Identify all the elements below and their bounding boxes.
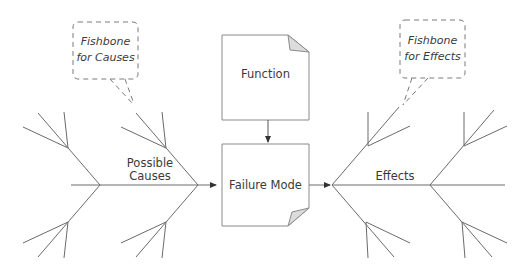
function-box: Function (222, 67, 309, 81)
possible-causes-label: Possible Causes (110, 157, 190, 183)
effects-callout-line2: for Effects (400, 49, 465, 65)
effects-callout: Fishbone for Effects (400, 33, 465, 65)
causes-callout-line2: for Causes (73, 50, 138, 66)
possible-causes-line2: Causes (110, 170, 190, 183)
effects-label: Effects (370, 169, 420, 183)
effects-callout-line1: Fishbone (400, 33, 465, 49)
failure-mode-box: Failure Mode (222, 178, 309, 192)
causes-fishbone (23, 112, 216, 258)
causes-callout-line1: Fishbone (73, 34, 138, 50)
causes-callout: Fishbone for Causes (73, 34, 138, 66)
